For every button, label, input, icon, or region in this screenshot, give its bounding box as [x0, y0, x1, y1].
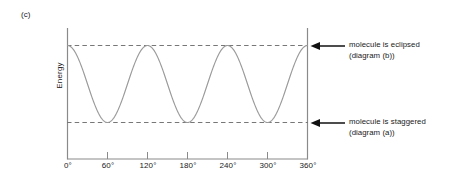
- arrow-left-icon: [311, 42, 321, 50]
- energy-curve: [68, 46, 308, 123]
- energy-diagram-figure: (c) Energy: [0, 0, 453, 184]
- plot-canvas: [0, 0, 453, 184]
- x-tick-label-60: 60°: [91, 161, 125, 170]
- staggered-arrow: [311, 119, 346, 127]
- x-tick-label-0: 0°: [51, 161, 85, 170]
- staggered-annotation: molecule is staggered (diagram (a)): [349, 116, 426, 138]
- x-tick-label-360: 360°: [291, 161, 325, 170]
- staggered-annotation-line1: molecule is staggered: [349, 117, 426, 126]
- eclipsed-annotation-line1: molecule is eclipsed: [349, 40, 420, 49]
- x-axis-ticks: [68, 152, 308, 159]
- arrow-left-icon: [311, 119, 321, 127]
- y-axis-label: Energy: [55, 52, 64, 100]
- eclipsed-arrow: [311, 42, 346, 50]
- staggered-annotation-line2: (diagram (a)): [349, 127, 426, 138]
- eclipsed-annotation-line2: (diagram (b)): [349, 50, 420, 61]
- x-tick-label-120: 120°: [131, 161, 165, 170]
- x-tick-label-240: 240°: [211, 161, 245, 170]
- x-tick-label-300: 300°: [251, 161, 285, 170]
- eclipsed-annotation: molecule is eclipsed (diagram (b)): [349, 39, 420, 61]
- x-tick-label-180: 180°: [171, 161, 205, 170]
